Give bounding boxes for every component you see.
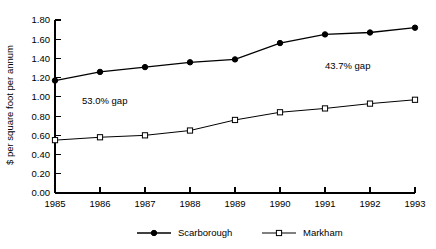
- data-point: [367, 30, 372, 35]
- data-point: [232, 117, 237, 122]
- legend-marker: [276, 230, 281, 235]
- y-axis-tick-label: 1.20: [32, 72, 51, 83]
- x-axis-tick-label: 1993: [404, 198, 425, 209]
- data-point: [322, 106, 327, 111]
- data-point: [322, 32, 327, 37]
- data-point: [52, 78, 57, 83]
- x-axis-tick-label: 1986: [89, 198, 110, 209]
- data-point: [142, 133, 147, 138]
- chart-annotation: 53.0% gap: [82, 95, 127, 106]
- data-point: [52, 138, 57, 143]
- chart-annotation: 43.7% gap: [325, 60, 370, 71]
- line-chart: $ per square foot per annum 0.000.200.40…: [0, 0, 436, 249]
- x-axis-tick-label: 1988: [179, 198, 200, 209]
- legend-label-markham: Markham: [303, 227, 343, 238]
- data-point: [187, 60, 192, 65]
- y-axis-tick-label: 0.00: [32, 187, 51, 198]
- data-point: [97, 69, 102, 74]
- data-point: [367, 101, 372, 106]
- y-axis-tick-label: 0.60: [32, 130, 51, 141]
- data-point: [412, 97, 417, 102]
- data-point: [412, 25, 417, 30]
- y-axis-tick-label: 1.80: [32, 14, 51, 25]
- y-axis-tick-label: 1.40: [32, 53, 51, 64]
- x-axis-tick-label: 1990: [269, 198, 290, 209]
- y-axis-tick-label: 0.40: [32, 149, 51, 160]
- y-axis-tick-label: 1.60: [32, 34, 51, 45]
- x-axis-tick-label: 1985: [44, 198, 65, 209]
- y-axis-tick-label: 1.00: [32, 91, 51, 102]
- data-point: [232, 57, 237, 62]
- y-axis-tick-label: 0.80: [32, 111, 51, 122]
- x-axis-tick-label: 1991: [314, 198, 335, 209]
- x-axis-tick-label: 1992: [359, 198, 380, 209]
- data-point: [277, 110, 282, 115]
- legend-marker: [151, 230, 156, 235]
- x-axis-tick-label: 1989: [224, 198, 245, 209]
- data-point: [277, 40, 282, 45]
- data-point: [187, 128, 192, 133]
- y-axis-tick-label: 0.20: [32, 168, 51, 179]
- x-axis-tick-label: 1987: [134, 198, 155, 209]
- chart-background: [0, 0, 436, 249]
- chart-container: $ per square foot per annum 0.000.200.40…: [0, 0, 436, 249]
- data-point: [97, 135, 102, 140]
- legend-label-scarborough: Scarborough: [178, 227, 232, 238]
- x-axis-tick-labels: 198519861987198819891990199119921993: [44, 198, 425, 209]
- data-point: [142, 64, 147, 69]
- y-axis-title: $ per square foot per annum: [4, 45, 15, 165]
